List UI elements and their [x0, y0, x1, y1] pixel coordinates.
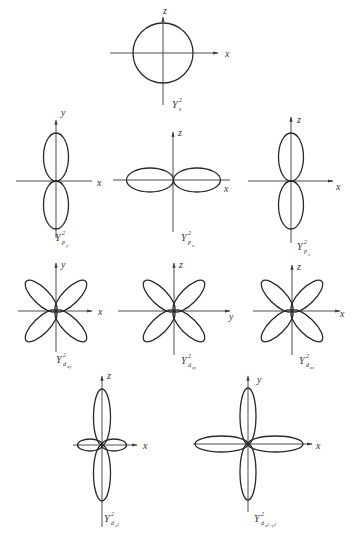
axis-label-x: x [97, 306, 103, 317]
label-subsubscript: z [307, 252, 310, 257]
panel-px: x z Y 2 p x [113, 127, 230, 248]
label-superscript: 2 [306, 353, 309, 359]
axis-label-x: x [142, 440, 148, 451]
panel-dxy: x y Y 2 d xy [18, 259, 103, 369]
label-subscript: p [303, 248, 307, 254]
label-subsubscript: xz [309, 365, 314, 370]
panel-dx2y2: x y Y 2 d x²−y² [193, 374, 321, 528]
label-superscript: 2 [188, 230, 191, 236]
label-subscript: s [179, 106, 182, 112]
axis-label-x: x [339, 308, 345, 319]
axis-label-y: y [228, 311, 234, 322]
panel-label: Y [254, 513, 261, 524]
panel-label: Y [181, 232, 188, 243]
panel-label: Y [181, 355, 188, 366]
label-subscript: p [187, 239, 191, 245]
axis-label-z: z [177, 127, 182, 138]
panel-py: x y Y 2 p y [16, 107, 102, 248]
label-subsubscript: xy [66, 364, 72, 369]
label-subscript: p [61, 239, 65, 245]
axis-label-y: y [256, 374, 262, 385]
panel-label: Y [172, 99, 179, 110]
axis-label-y: y [60, 107, 66, 118]
axis-label-y: y [60, 259, 66, 270]
label-superscript: 2 [188, 353, 191, 359]
label-superscript: 2 [261, 511, 264, 517]
label-superscript: 2 [62, 230, 65, 236]
label-subsubscript: x²−y² [264, 523, 276, 528]
label-superscript: 2 [304, 239, 307, 245]
label-subsubscript: zy [191, 365, 197, 370]
axis-label-z: z [296, 261, 301, 272]
axis-label-x: x [335, 181, 341, 192]
panel-s: x z Y 2 s [110, 5, 230, 112]
axis-label-x: x [224, 48, 230, 59]
axis-label-z: z [178, 259, 183, 270]
panel-dz2: x z Y 2 d z² [73, 370, 148, 528]
panel-label: Y [56, 354, 63, 365]
panel-label: Y [299, 355, 306, 366]
panel-pz: x z Y 2 p z [248, 114, 341, 257]
panel-dxz: x z Y 2 d xz [253, 261, 345, 370]
label-subsubscript: x [191, 243, 195, 248]
axis-label-z: z [162, 5, 167, 16]
axis-label-z: z [296, 114, 301, 125]
axis-label-x: x [315, 440, 321, 451]
panel-label: Y [297, 241, 304, 252]
label-superscript: 2 [63, 352, 66, 358]
panel-label: Y [55, 232, 62, 243]
label-subsubscript: y [65, 243, 69, 248]
axis-label-z: z [106, 370, 111, 381]
label-superscript: 2 [179, 97, 182, 103]
panel-dzy: y z Y 2 d zy [118, 259, 234, 370]
axis-label-x: x [96, 177, 102, 188]
label-subsubscript: z² [114, 523, 119, 528]
panel-label: Y [104, 513, 111, 524]
axis-label-x: x [223, 183, 229, 194]
orbital-angular-distribution-figure: x z Y 2 s x y Y 2 p y x z Y 2 p x x z [0, 0, 352, 543]
label-superscript: 2 [111, 511, 114, 517]
